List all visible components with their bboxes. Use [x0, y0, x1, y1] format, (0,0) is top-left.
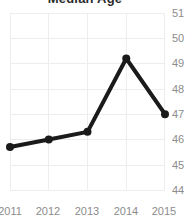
ytick-label-51: 51	[172, 8, 194, 19]
data-point-2013	[84, 128, 92, 136]
data-point-2012	[45, 135, 53, 143]
data-point-2015	[161, 110, 169, 118]
chart-title: Median Age	[0, 0, 170, 6]
ytick-label-50: 50	[172, 33, 194, 44]
ytick-label-46: 46	[172, 134, 194, 145]
ytick-label-49: 49	[172, 58, 194, 69]
ytick-label-47: 47	[172, 109, 194, 120]
series-median-age	[10, 13, 165, 190]
ytick-label-48: 48	[172, 84, 194, 95]
ytick-label-44: 44	[172, 185, 194, 196]
xtick-label-2014: 2014	[105, 205, 147, 217]
ytick-label-45: 45	[172, 160, 194, 171]
series-markers	[6, 55, 169, 152]
data-point-2011	[6, 143, 14, 151]
xtick-label-2015: 2015	[143, 205, 185, 217]
plot-area	[10, 13, 165, 190]
gridline-y-44	[10, 190, 165, 191]
xtick-label-2012: 2012	[27, 205, 69, 217]
line-chart: Median Age 51 50 49 48 47 46 45 44 2011 …	[0, 0, 195, 224]
data-point-2014	[122, 55, 130, 63]
xtick-label-2013: 2013	[66, 205, 108, 217]
